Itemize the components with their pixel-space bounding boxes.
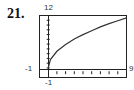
viewing-window-frame [40, 16, 127, 78]
graph-plot [0, 0, 134, 90]
x-axis-ticks [40, 71, 127, 74]
function-curve [48, 18, 126, 68]
